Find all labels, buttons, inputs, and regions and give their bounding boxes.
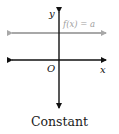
function-label: f(x) = a <box>62 19 95 29</box>
x-axis-label: x <box>100 64 106 75</box>
y-axis-label: y <box>48 8 55 19</box>
caption: Constant <box>0 114 119 129</box>
origin-label: O <box>47 63 55 74</box>
